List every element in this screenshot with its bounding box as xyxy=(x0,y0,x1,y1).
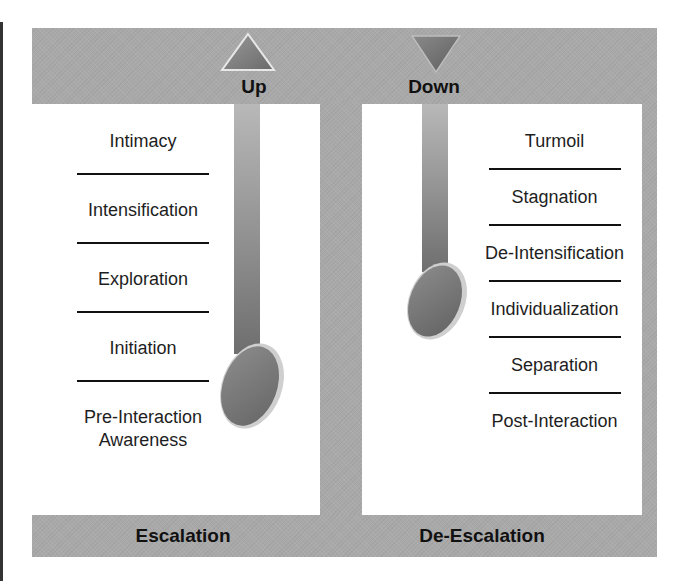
center-post xyxy=(320,100,362,520)
de-escalation-label: De-Escalation xyxy=(419,525,545,547)
up-label: Up xyxy=(241,76,266,98)
stage-pre-interaction-line2: Awareness xyxy=(84,429,202,452)
stage-divider xyxy=(489,280,621,282)
deescalation-stage-list: Turmoil Stagnation De-Intensification In… xyxy=(472,130,637,434)
stage-divider xyxy=(77,173,209,175)
stage-exploration: Exploration xyxy=(98,268,188,294)
down-pendulum-rod xyxy=(422,104,448,272)
stage-individualization: Individualization xyxy=(490,298,618,322)
down-label: Down xyxy=(408,76,460,98)
escalation-stage-list: Intimacy Intensification Exploration Ini… xyxy=(32,130,254,452)
stage-turmoil: Turmoil xyxy=(525,130,584,154)
triangle-down-icon xyxy=(410,34,462,74)
right-rail xyxy=(642,28,657,556)
stage-post-interaction: Post-Interaction xyxy=(491,410,617,434)
stage-pre-interaction-awareness: Pre-Interaction Awareness xyxy=(84,406,202,452)
down-pendulum-bob xyxy=(397,255,477,351)
stage-divider xyxy=(77,311,209,313)
stage-divider xyxy=(489,336,621,338)
stage-initiation: Initiation xyxy=(109,337,176,363)
stage-stagnation: Stagnation xyxy=(511,186,597,210)
escalation-label: Escalation xyxy=(135,525,230,547)
stage-intensification: Intensification xyxy=(88,199,198,225)
stage-divider xyxy=(77,380,209,382)
top-bar xyxy=(32,28,657,104)
stage-separation: Separation xyxy=(511,354,598,378)
triangle-up-icon xyxy=(220,32,276,72)
page-edge-line xyxy=(0,22,3,581)
stage-divider xyxy=(489,168,621,170)
stage-divider xyxy=(77,242,209,244)
bottom-bar xyxy=(32,515,657,557)
stage-pre-interaction-line1: Pre-Interaction xyxy=(84,406,202,429)
stage-divider xyxy=(489,392,621,394)
stage-divider xyxy=(489,224,621,226)
stage-intimacy: Intimacy xyxy=(109,130,176,156)
stage-de-intensification: De-Intensification xyxy=(485,242,624,266)
